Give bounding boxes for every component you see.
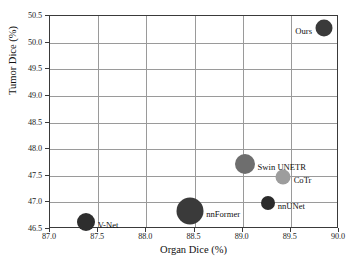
y-axis-tick-mark bbox=[45, 201, 49, 202]
data-point-label: CoTr bbox=[294, 175, 312, 185]
data-point-label: Swin UNETR bbox=[258, 162, 306, 172]
gridline-horizontal bbox=[50, 123, 337, 124]
scatter-plot-figure: V-NetnnFormernnUNetCoTrSwin UNETROurs 87… bbox=[0, 0, 356, 267]
y-axis-tick-mark bbox=[45, 15, 49, 16]
x-axis-tick-label: 90.0 bbox=[331, 232, 345, 241]
x-axis-tick-label: 88.0 bbox=[138, 232, 152, 241]
y-axis-tick-label: 46.5 bbox=[28, 224, 42, 233]
y-axis-tick-label: 48.5 bbox=[28, 117, 42, 126]
data-point-label: nnUNet bbox=[278, 201, 305, 211]
gridline-vertical bbox=[146, 16, 147, 227]
gridline-horizontal bbox=[50, 96, 337, 97]
y-axis-tick-mark bbox=[45, 68, 49, 69]
y-axis-tick-label: 47.0 bbox=[28, 197, 42, 206]
gridline-vertical bbox=[243, 16, 244, 227]
data-point-label: V-Net bbox=[98, 220, 119, 230]
y-axis-tick-label: 50.5 bbox=[28, 11, 42, 20]
y-axis-tick-mark bbox=[45, 42, 49, 43]
data-point-bubble[interactable] bbox=[77, 213, 95, 231]
data-point-bubble[interactable] bbox=[315, 20, 332, 37]
data-point-label: Ours bbox=[295, 26, 312, 36]
x-axis-tick-label: 87.0 bbox=[42, 232, 56, 241]
y-axis-tick-label: 48.0 bbox=[28, 144, 42, 153]
y-axis-tick-label: 49.5 bbox=[28, 64, 42, 73]
y-axis-tick-label: 47.5 bbox=[28, 170, 42, 179]
y-axis-tick-mark bbox=[45, 228, 49, 229]
data-point-bubble[interactable] bbox=[176, 198, 203, 225]
data-point-bubble[interactable] bbox=[235, 154, 255, 174]
x-axis-label: Organ Dice (%) bbox=[49, 244, 338, 255]
gridline-vertical bbox=[195, 16, 196, 227]
data-point-bubble[interactable] bbox=[276, 169, 291, 184]
y-axis-tick-mark bbox=[45, 95, 49, 96]
x-axis-tick-label: 87.5 bbox=[90, 232, 104, 241]
x-axis-tick-label: 89.5 bbox=[283, 232, 297, 241]
y-axis-tick-mark bbox=[45, 175, 49, 176]
y-axis-tick-mark bbox=[45, 148, 49, 149]
gridline-horizontal bbox=[50, 43, 337, 44]
plot-area: V-NetnnFormernnUNetCoTrSwin UNETROurs bbox=[49, 15, 338, 228]
gridline-horizontal bbox=[50, 69, 337, 70]
y-axis-tick-label: 49.0 bbox=[28, 90, 42, 99]
y-axis-label: Tumor Dice (%) bbox=[7, 0, 18, 126]
x-axis-tick-label: 88.5 bbox=[187, 232, 201, 241]
y-axis-tick-label: 50.0 bbox=[28, 37, 42, 46]
x-axis-tick-label: 89.0 bbox=[235, 232, 249, 241]
gridline-horizontal bbox=[50, 149, 337, 150]
data-point-bubble[interactable] bbox=[261, 196, 275, 210]
gridline-vertical bbox=[291, 16, 292, 227]
gridline-vertical bbox=[98, 16, 99, 227]
data-point-label: nnFormer bbox=[206, 209, 240, 219]
y-axis-tick-mark bbox=[45, 122, 49, 123]
